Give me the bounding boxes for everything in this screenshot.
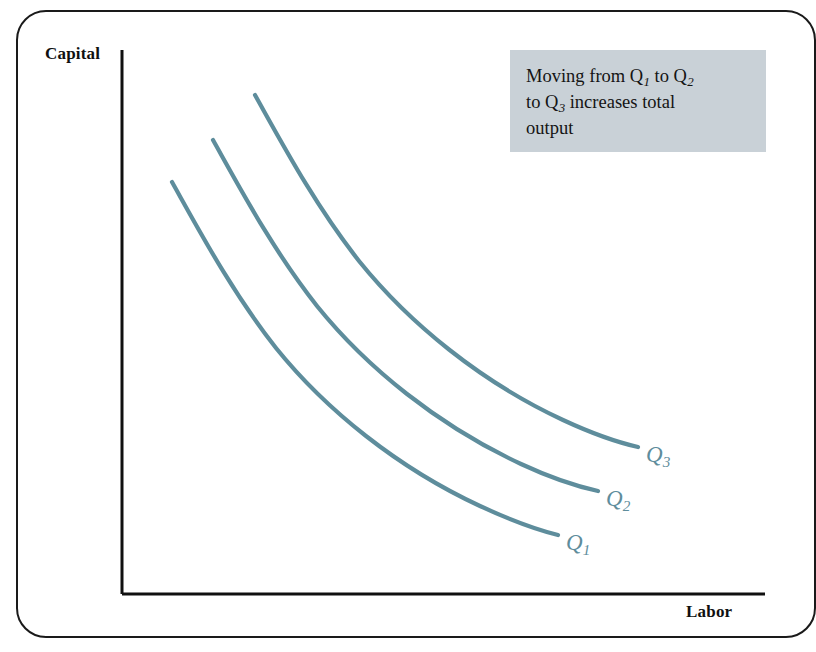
y-axis-label: Capital xyxy=(45,44,100,64)
x-axis-label: Labor xyxy=(686,602,732,622)
annotation-line1-prefix: Moving from Q xyxy=(526,66,643,86)
curve-label-q2: Q2 xyxy=(606,486,630,515)
curve-label-q3: Q3 xyxy=(646,442,670,471)
curve-label-q2-sub: 2 xyxy=(623,497,631,514)
annotation-line2-rest: increases total xyxy=(565,92,675,112)
annotation-line1-sub2: 2 xyxy=(687,74,694,89)
annotation-text: Moving from Q1 to Q2 to Q3 increases tot… xyxy=(526,64,750,141)
annotation-line1-sub1: 1 xyxy=(643,74,650,89)
curve-label-q3-base: Q xyxy=(646,442,663,467)
curve-label-q1-sub: 1 xyxy=(583,541,591,558)
isoquant-curve-q2 xyxy=(213,140,598,491)
curve-label-q1: Q1 xyxy=(566,530,590,559)
curve-label-q3-sub: 3 xyxy=(663,453,671,470)
curve-label-q2-base: Q xyxy=(606,486,623,511)
annotation-line2-prefix: to Q xyxy=(526,92,558,112)
annotation-callout: Moving from Q1 to Q2 to Q3 increases tot… xyxy=(510,50,766,152)
curve-label-q1-base: Q xyxy=(566,530,583,555)
annotation-line1-mid: to Q xyxy=(650,66,687,86)
annotation-line3: output xyxy=(526,118,573,138)
